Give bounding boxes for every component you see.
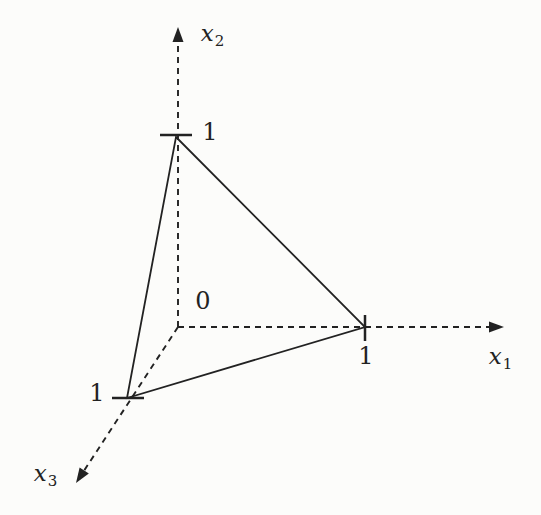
axis-arrowhead-x1 <box>489 322 504 333</box>
tick-label-x2: 1 <box>202 120 217 144</box>
axis-label-x2-sub: 2 <box>215 32 225 50</box>
axis-label-x2-base: x <box>201 20 214 46</box>
axis-label-x1-sub: 1 <box>503 355 513 373</box>
axis-label-x3: x3 <box>34 462 57 485</box>
axis-label-x3-sub: 3 <box>48 472 58 490</box>
tick-label-x1: 1 <box>358 344 373 368</box>
axis-arrowhead-x2 <box>173 27 184 42</box>
axis-arrowhead-x3 <box>76 467 89 483</box>
figure-canvas: x1 x2 x3 0 1 1 1 <box>0 0 541 515</box>
axis-label-x3-base: x <box>34 460 47 486</box>
axis-label-x1-base: x <box>489 343 502 369</box>
axis-label-x2: x2 <box>201 22 224 45</box>
simplex-triangle <box>127 137 365 398</box>
simplex-diagram <box>0 0 541 515</box>
tick-label-x3: 1 <box>89 381 104 405</box>
axis-label-x1: x1 <box>489 345 512 368</box>
origin-label: 0 <box>195 289 210 313</box>
